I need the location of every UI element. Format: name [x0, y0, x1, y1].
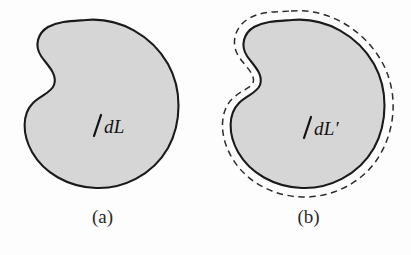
figure-container: dL (a) dL′ (b) — [0, 0, 411, 255]
figure-panel-a: dL (a) — [0, 0, 205, 255]
closed-curve-solid — [25, 20, 179, 188]
panel-b-caption: (b) — [206, 206, 411, 229]
panel-a-caption: (a) — [0, 206, 205, 229]
panel-b-quantity-label: dL′ — [314, 119, 339, 138]
closed-curve-solid — [231, 20, 385, 188]
figure-panel-b: dL′ (b) — [206, 0, 411, 255]
panel-a-quantity-label: dL — [104, 117, 124, 136]
panel-a-drawing — [0, 0, 205, 205]
panel-b-drawing — [206, 0, 411, 205]
